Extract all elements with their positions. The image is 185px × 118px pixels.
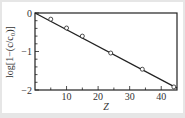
y-axis-label: log[1−(c/c₀)]	[4, 26, 16, 78]
x-tick-label: 20	[93, 91, 103, 102]
x-axis-label: Z	[103, 101, 109, 112]
line-chart: 102030400−1−2 log[1−(c/c₀)] Z	[0, 0, 185, 118]
data-point-marker	[65, 26, 69, 30]
x-tick-label: 30	[125, 91, 135, 102]
data-point-marker	[80, 34, 84, 38]
data-point-marker	[109, 51, 113, 55]
x-tick-label: 40	[156, 91, 166, 102]
data-point-marker	[140, 67, 144, 71]
data-point-marker	[49, 17, 53, 21]
y-tick-label: 0	[27, 8, 32, 19]
plot-area: 102030400−1−2	[21, 8, 177, 103]
y-tick-label: −1	[21, 46, 32, 57]
x-tick-label: 10	[62, 91, 72, 102]
y-tick-label: −2	[21, 85, 32, 96]
data-point-marker	[172, 85, 176, 89]
